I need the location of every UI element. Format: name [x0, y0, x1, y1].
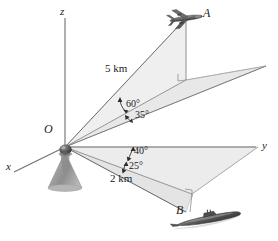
axis-label-x: x — [6, 161, 11, 172]
technical-diagram: x y z O A B 5 km 2 km 60° 35° 40° 25° — [0, 0, 278, 241]
dimension-label-5km: 5 km — [105, 63, 127, 74]
angle-label-40: 40° — [134, 146, 148, 156]
angle-label-60: 60° — [126, 99, 140, 109]
angle-label-25: 25° — [129, 161, 143, 171]
diagram-canvas — [0, 0, 278, 241]
upper-shaded-plane — [65, 18, 266, 147]
axis-label-y: y — [262, 140, 267, 151]
point-label-submarine: B — [176, 204, 183, 216]
angle-label-35: 35° — [135, 110, 149, 120]
axis-label-z: z — [60, 6, 64, 17]
point-label-origin: O — [44, 123, 53, 135]
dimension-label-2km: 2 km — [110, 173, 132, 184]
point-label-airplane: A — [203, 7, 210, 19]
lower-shaded-plane — [65, 147, 258, 212]
